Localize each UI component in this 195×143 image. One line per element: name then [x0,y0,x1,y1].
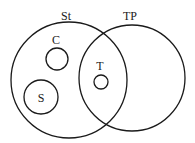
subset-s-label: S [38,91,45,105]
set-st-label: St [61,9,72,23]
subset-c-label: C [52,33,60,47]
subset-t-label: T [96,59,104,73]
subset-c-circle [46,48,68,70]
set-st-circle [11,22,127,138]
subset-t-circle [94,75,108,89]
venn-diagram: St TP C S T [0,0,195,143]
set-tp-label: TP [123,9,137,23]
